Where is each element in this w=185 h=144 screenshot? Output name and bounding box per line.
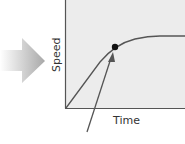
highlighted-point: [112, 44, 118, 50]
speed-time-diagram: Time Speed: [0, 0, 185, 144]
y-axis-label: Speed: [50, 38, 63, 72]
pointer-arrow-icon: [0, 38, 45, 83]
x-axis-label: Time: [112, 114, 140, 127]
plot-area: [65, 0, 185, 108]
